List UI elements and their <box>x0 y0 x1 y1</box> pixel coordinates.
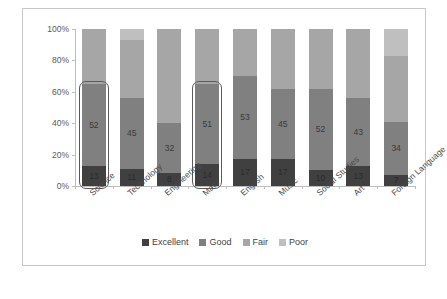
bar-segment-good[interactable]: 51 <box>195 84 219 164</box>
x-tick-mark <box>264 186 265 189</box>
y-axis-line <box>75 29 76 187</box>
bar-column[interactable]: 4511 <box>120 29 144 186</box>
bar-segment-value: 13 <box>89 172 98 181</box>
y-tick-label: 80% <box>37 56 69 65</box>
x-tick-mark <box>75 186 76 189</box>
legend-item[interactable]: Fair <box>243 238 269 247</box>
bar-segment-good[interactable]: 43 <box>346 98 370 166</box>
bar-segment-value: 43 <box>354 128 363 137</box>
bar-segment-good[interactable]: 52 <box>82 84 106 166</box>
x-tick-mark <box>188 186 189 189</box>
bar-segment-value: 51 <box>202 120 211 129</box>
bar-segment-value: 13 <box>354 172 363 181</box>
bar-column[interactable]: 347 <box>384 29 408 186</box>
y-tick-label: 100% <box>37 25 69 34</box>
bar-segment-poor[interactable] <box>120 29 144 40</box>
y-tick-mark <box>72 29 75 30</box>
bar-segment-good[interactable]: 53 <box>233 76 257 159</box>
bar-column[interactable]: 5210 <box>309 29 333 186</box>
bar-column[interactable]: 4517 <box>271 29 295 186</box>
bar-segment-fair[interactable] <box>233 29 257 76</box>
bar-segment-value: 45 <box>127 129 136 138</box>
bar-segment-good[interactable]: 45 <box>271 89 295 160</box>
bar-segment-fair[interactable] <box>157 29 181 123</box>
plot-area: 0%20%40%60%80%100% 521345113285114531745… <box>75 29 415 186</box>
bar-segment-value: 14 <box>202 171 211 180</box>
x-tick-mark <box>151 186 152 189</box>
bar-segment-fair[interactable] <box>82 29 106 84</box>
y-tick-label: 0% <box>37 182 69 191</box>
bar-segment-value: 52 <box>89 121 98 130</box>
x-tick-mark <box>113 186 114 189</box>
bar-segment-value: 32 <box>165 144 174 153</box>
bar-segment-value: 34 <box>391 144 400 153</box>
x-tick-mark <box>339 186 340 189</box>
legend-item[interactable]: Excellent <box>142 238 189 247</box>
y-tick-label: 20% <box>37 151 69 160</box>
bar-segment-value: 52 <box>316 125 325 134</box>
bar-segment-value: 45 <box>278 120 287 129</box>
legend-label: Fair <box>253 238 269 247</box>
bar-segment-poor[interactable] <box>384 29 408 56</box>
y-tick-mark <box>72 155 75 156</box>
x-tick-mark <box>415 186 416 189</box>
bar-segment-fair[interactable] <box>384 56 408 122</box>
legend-swatch-icon <box>199 239 206 246</box>
legend-swatch-icon <box>279 239 286 246</box>
chart-frame: 0%20%40%60%80%100% 521345113285114531745… <box>22 8 426 266</box>
legend-swatch-icon <box>142 239 149 246</box>
bar-segment-good[interactable]: 45 <box>120 98 144 169</box>
bar-segment-value: 17 <box>278 168 287 177</box>
y-tick-mark <box>72 123 75 124</box>
bar-segment-fair[interactable] <box>195 29 219 84</box>
bar-segment-fair[interactable] <box>346 29 370 98</box>
bar-segment-good[interactable]: 52 <box>309 89 333 171</box>
bar-column[interactable]: 5317 <box>233 29 257 186</box>
y-tick-mark <box>72 92 75 93</box>
bar-segment-fair[interactable] <box>271 29 295 89</box>
chart-legend: ExcellentGoodFairPoor <box>23 238 427 247</box>
legend-swatch-icon <box>243 239 250 246</box>
y-tick-label: 40% <box>37 119 69 128</box>
x-tick-mark <box>377 186 378 189</box>
bar-segment-value: 53 <box>240 113 249 122</box>
bar-segment-value: 17 <box>240 168 249 177</box>
bar-segment-fair[interactable] <box>120 40 144 98</box>
bar-segment-good[interactable]: 34 <box>384 122 408 175</box>
legend-label: Good <box>209 238 231 247</box>
legend-item[interactable]: Poor <box>279 238 308 247</box>
legend-item[interactable]: Good <box>199 238 231 247</box>
y-tick-mark <box>72 60 75 61</box>
x-tick-mark <box>302 186 303 189</box>
legend-label: Excellent <box>152 238 189 247</box>
y-tick-label: 60% <box>37 88 69 97</box>
bar-column[interactable]: 328 <box>157 29 181 186</box>
bar-segment-fair[interactable] <box>309 29 333 89</box>
x-tick-mark <box>226 186 227 189</box>
bar-column[interactable]: 5213 <box>82 29 106 186</box>
legend-label: Poor <box>289 238 308 247</box>
